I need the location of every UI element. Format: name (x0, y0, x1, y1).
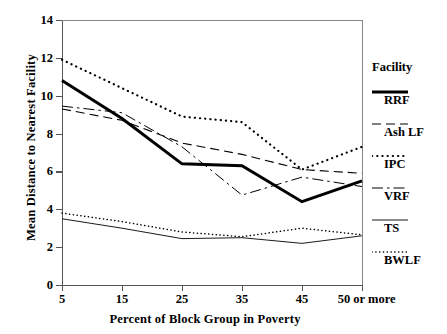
y-tick-label: 6 (47, 164, 53, 179)
series-lines (62, 20, 362, 285)
legend-label-ipc: IPC (384, 157, 406, 172)
legend-line-sample-ash-lf (372, 113, 408, 119)
legend-line-sample-rrf (372, 81, 408, 87)
x-tick-label: 15 (116, 292, 129, 307)
series-line-vrf (62, 106, 362, 195)
series-line-bwlf (62, 213, 362, 237)
legend-label-rrf: RRF (384, 93, 410, 108)
legend-label-vrf: VRF (384, 189, 410, 204)
x-axis-line (62, 285, 362, 286)
chart-figure: Mean Distance to Nearest Facility 024681… (0, 0, 447, 334)
series-line-ipc (62, 60, 362, 170)
legend-item-ts[interactable]: TS (370, 207, 447, 239)
y-axis-title: Mean Distance to Nearest Facility (24, 23, 39, 273)
legend-item-vrf[interactable]: VRF (370, 175, 447, 207)
legend-title: Facility (370, 60, 447, 75)
x-tick (242, 285, 243, 291)
series-line-ts (62, 219, 362, 244)
y-tick-label: 0 (47, 278, 53, 293)
y-tick-label: 2 (47, 240, 53, 255)
y-tick-label: 12 (41, 50, 54, 65)
legend-item-ipc[interactable]: IPC (370, 143, 447, 175)
y-tick-label: 10 (41, 88, 54, 103)
x-tick-label: 25 (176, 292, 189, 307)
legend-label-ash-lf: Ash LF (384, 125, 424, 140)
x-tick (182, 285, 183, 291)
legend-line-sample-vrf (372, 177, 408, 183)
x-tick-label: 50 or more (338, 292, 396, 307)
x-axis-title: Percent of Block Group in Poverty (40, 312, 370, 327)
chart-legend: Facility RRFAsh LFIPCVRFTSBWLF (370, 60, 447, 271)
plot-right-border (362, 20, 363, 285)
x-tick (122, 285, 123, 291)
y-tick-label: 4 (47, 202, 53, 217)
legend-line-sample-ipc (372, 145, 408, 151)
y-tick-label: 14 (41, 13, 54, 28)
legend-item-rrf[interactable]: RRF (370, 79, 447, 111)
legend-item-ash-lf[interactable]: Ash LF (370, 111, 447, 143)
x-tick-label: 45 (296, 292, 309, 307)
legend-item-bwlf[interactable]: BWLF (370, 239, 447, 271)
legend-label-bwlf: BWLF (384, 253, 421, 268)
x-tick-label: 5 (59, 292, 65, 307)
legend-line-sample-bwlf (372, 241, 408, 247)
series-line-rrf (62, 81, 362, 202)
plot-area: 02468101214 51525354550 or more (62, 20, 362, 285)
x-tick (62, 285, 63, 291)
x-tick (362, 285, 363, 291)
legend-label-ts: TS (384, 221, 399, 236)
y-tick-label: 8 (47, 126, 53, 141)
legend-line-sample-ts (372, 209, 408, 215)
x-tick (302, 285, 303, 291)
x-tick-label: 35 (236, 292, 249, 307)
